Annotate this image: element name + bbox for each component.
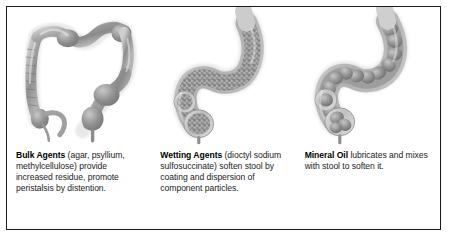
illustration-sigmoid-colon-lumpy-stool bbox=[296, 7, 440, 145]
figure-frame: Bulk Agents (agar, psyllium, methylcellu… bbox=[6, 6, 441, 230]
caption-mineral-oil: Mineral Oil lubricates and mixes with st… bbox=[296, 145, 440, 229]
proximal-colon-stub bbox=[244, 11, 247, 23]
panel-wetting-agents: Wetting Agents (dioctyl sodium sulfosucc… bbox=[151, 7, 295, 229]
rectum bbox=[82, 107, 104, 131]
proximal-colon-stub bbox=[384, 9, 387, 21]
colon-lumpy-svg bbox=[296, 7, 440, 145]
caption-term: Bulk Agents bbox=[16, 150, 65, 160]
caption-bulk-agents: Bulk Agents (agar, psyllium, methylcellu… bbox=[7, 145, 151, 229]
colon-granular-svg bbox=[151, 7, 295, 145]
caption-term: Mineral Oil bbox=[305, 150, 348, 160]
caption-term: Wetting Agents bbox=[160, 150, 222, 160]
illustration-large-intestine-colon-normal bbox=[7, 7, 151, 145]
caption-wetting-agents: Wetting Agents (dioctyl sodium sulfosucc… bbox=[151, 145, 295, 229]
panel-mineral-oil: Mineral Oil lubricates and mixes with st… bbox=[296, 7, 440, 229]
sigmoid-bulge bbox=[94, 84, 120, 106]
panel-bulk-agents: Bulk Agents (agar, psyllium, methylcellu… bbox=[7, 7, 151, 229]
panel-row: Bulk Agents (agar, psyllium, methylcellu… bbox=[7, 7, 440, 229]
illustration-sigmoid-colon-granular-stool bbox=[151, 7, 295, 145]
rectum-stool bbox=[188, 113, 211, 134]
colon-normal-svg bbox=[7, 7, 151, 145]
appendix bbox=[43, 125, 49, 141]
